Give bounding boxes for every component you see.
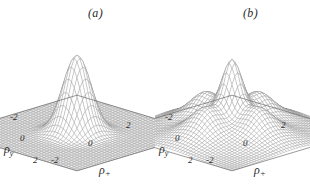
panel-a-xtick-mid: 0	[88, 138, 93, 148]
panel-b-ytick-min: 2	[188, 155, 193, 165]
panel-b-xtick-min: -2	[206, 155, 214, 165]
panel-a-label: (a)	[0, 6, 155, 21]
panel-a: (a) -2 0 2 -2 0 2 ρy ρ+	[0, 0, 155, 191]
panel-b-ytick-max: -2	[165, 112, 173, 122]
surface-plot-b	[155, 0, 310, 191]
panel-a-ytick-max: -2	[10, 112, 18, 122]
panel-a-ytick-mid: 0	[20, 133, 25, 143]
panel-b: (b) -2 0 2 -2 0 2 ρy ρ+	[155, 0, 310, 191]
panel-b-xtick-max: 2	[281, 120, 286, 130]
surface-plot-a	[0, 0, 155, 191]
panel-b-y-axis-label: ρy	[159, 142, 168, 158]
panel-a-xtick-min: -2	[51, 155, 59, 165]
panel-a-ytick-min: 2	[33, 155, 38, 165]
panel-a-x-axis-label: ρ+	[99, 163, 111, 178]
panel-b-label: (b)	[155, 6, 310, 21]
panel-b-x-axis-label: ρ+	[254, 163, 266, 178]
panel-b-ytick-mid: 0	[175, 133, 180, 143]
panel-a-y-axis-label: ρy	[4, 142, 13, 158]
panel-b-xtick-mid: 0	[243, 138, 248, 148]
figure-container: (a) -2 0 2 -2 0 2 ρy ρ+ (b) -2 0 2 -2 0 …	[0, 0, 310, 191]
panel-a-xtick-max: 2	[126, 120, 131, 130]
